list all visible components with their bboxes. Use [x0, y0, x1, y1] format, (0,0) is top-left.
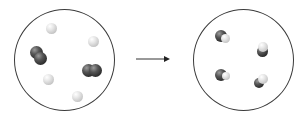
dark-diatomic-atom-b: [89, 64, 102, 77]
light-atom: [258, 74, 268, 84]
light-atom: [43, 74, 54, 85]
light-atom: [222, 72, 230, 80]
reactants-panel: [14, 9, 115, 111]
dark-diatomic-atom-b: [34, 52, 47, 65]
light-atom: [221, 34, 230, 43]
reaction-arrow-icon: [136, 54, 170, 64]
products-panel: [193, 9, 294, 111]
light-atom: [258, 42, 268, 52]
light-atom: [72, 91, 83, 102]
light-atom: [88, 36, 99, 47]
light-atom: [46, 23, 57, 34]
